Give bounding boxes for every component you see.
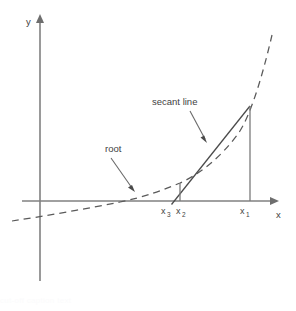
root-label: root (105, 143, 122, 154)
y-axis-arrowhead (36, 14, 44, 23)
annotation-root: root (105, 143, 135, 192)
x-axis-label: x (276, 209, 281, 220)
secant-line-arrowhead (201, 136, 208, 144)
tick-label-x1-sub: 1 (246, 211, 250, 218)
tick-label-x3-base: x (161, 206, 166, 216)
cut-off-caption: cut-off caption text (0, 296, 296, 311)
secant-line-group (172, 106, 251, 205)
tick-label-x2-sub: 2 (182, 211, 186, 218)
secant-line-label: secant line (152, 96, 197, 107)
x-axis-arrowhead (270, 197, 279, 205)
secant-method-diagram: secant line root y x x 3 x 2 x 1 (0, 0, 296, 311)
tick-label-x1: x 1 (240, 206, 250, 218)
tick-label-x2-base: x (176, 206, 181, 216)
secant-line-segment (172, 106, 251, 205)
axes-group (22, 14, 279, 281)
annotation-secant-line: secant line (152, 96, 207, 143)
tick-label-x1-base: x (240, 206, 245, 216)
root-arrowhead (128, 185, 135, 192)
drop-lines-group (180, 106, 250, 201)
figure-container: secant line root y x x 3 x 2 x 1 (0, 0, 296, 311)
root-leader (111, 158, 132, 188)
tick-label-x3: x 3 (161, 206, 171, 218)
tick-label-x2: x 2 (176, 206, 186, 218)
secant-line-leader (190, 111, 205, 139)
y-axis-label: y (26, 16, 31, 27)
tick-label-x3-sub: 3 (167, 211, 171, 218)
